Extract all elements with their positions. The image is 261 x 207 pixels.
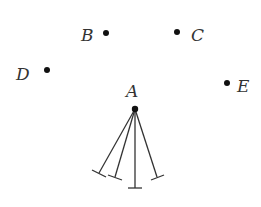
stem-1-cap [92,170,106,177]
point-b-label: B [80,25,94,45]
point-e-dot [224,80,230,86]
point-d-dot [44,67,50,73]
point-d-label: D [15,64,30,84]
point-a-dot [132,106,138,112]
stem-4 [135,109,157,177]
stem-2 [115,109,135,177]
stem-1 [99,109,135,173]
point-b-dot [103,30,109,36]
point-a-label: A [124,81,138,101]
stem-4-cap [151,175,164,180]
stems [92,109,164,188]
point-e-label: E [236,76,250,96]
diagram-canvas: A B C D E [0,0,261,207]
labels: A B C D E [15,25,250,101]
point-c-dot [174,29,180,35]
point-c-label: C [191,25,204,45]
